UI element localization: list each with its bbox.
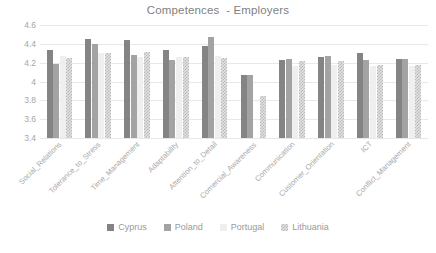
legend-label: Poland — [175, 222, 203, 232]
y-axis-tick-label: 4.4 — [24, 39, 36, 49]
y-axis-tick-label: 4.2 — [24, 58, 36, 68]
bar — [409, 66, 415, 138]
bar — [377, 65, 383, 138]
bar — [66, 58, 72, 138]
bar — [85, 39, 91, 138]
y-axis-tick-label: 4.6 — [24, 20, 36, 30]
bar — [325, 56, 331, 138]
bar — [318, 57, 324, 138]
bar-group — [273, 25, 312, 138]
bar — [221, 58, 227, 138]
gridline — [40, 138, 428, 139]
bar — [402, 59, 408, 138]
bar — [53, 64, 59, 138]
bar — [415, 65, 421, 138]
x-axis-category-labels: Social_RelationsTolerance_to_StressTime_… — [40, 140, 428, 210]
bar-group — [156, 25, 195, 138]
bar — [202, 46, 208, 138]
bar — [60, 56, 66, 138]
bar — [47, 50, 53, 138]
bar — [176, 57, 182, 138]
y-axis-tick-label: 3.8 — [24, 95, 36, 105]
bar — [92, 44, 98, 138]
bar — [163, 50, 169, 138]
bar — [241, 75, 247, 138]
x-axis-tick-label: Adaptability — [146, 140, 180, 174]
bar-group — [79, 25, 118, 138]
bar — [279, 60, 285, 138]
bar-group — [234, 25, 273, 138]
bar — [144, 52, 150, 138]
bar-chart: Competences - Employers 4.64.44.243.83.6… — [0, 0, 436, 253]
bar — [338, 61, 344, 138]
bar — [299, 61, 305, 138]
bar — [370, 66, 376, 138]
y-axis-tick-label: 3.6 — [24, 114, 36, 124]
bar — [396, 59, 402, 138]
legend-swatch-icon — [107, 224, 114, 231]
legend-swatch-icon — [281, 224, 288, 231]
y-axis-tick-label: 4 — [31, 77, 36, 87]
bar — [260, 96, 266, 138]
bar — [247, 75, 253, 138]
bar-group — [118, 25, 157, 138]
bar — [98, 53, 104, 138]
bar — [357, 53, 363, 138]
bar — [105, 53, 111, 138]
bar — [208, 37, 214, 138]
legend-swatch-icon — [164, 224, 171, 231]
y-axis-tick-label: 3.4 — [24, 133, 36, 143]
legend-item[interactable]: Poland — [164, 222, 203, 232]
bar — [363, 60, 369, 138]
bar — [137, 57, 143, 138]
plot-area — [40, 25, 428, 138]
bar-group — [350, 25, 389, 138]
legend-label: Portugal — [231, 222, 265, 232]
legend-item[interactable]: Portugal — [220, 222, 265, 232]
bar-group — [195, 25, 234, 138]
legend-item[interactable]: Cyprus — [107, 222, 147, 232]
bar — [286, 59, 292, 138]
bar-group — [40, 25, 79, 138]
chart-legend: CyprusPolandPortugalLithuania — [0, 222, 436, 232]
bar — [215, 56, 221, 138]
bar — [131, 55, 137, 138]
bar — [124, 40, 130, 138]
bar-group — [389, 25, 428, 138]
x-axis-tick-label: ICT — [359, 140, 374, 155]
bar — [292, 66, 298, 139]
bar — [169, 60, 175, 138]
legend-label: Lithuania — [292, 222, 329, 232]
y-axis: 4.64.44.243.83.63.4 — [0, 25, 36, 138]
legend-label: Cyprus — [118, 222, 147, 232]
legend-item[interactable]: Lithuania — [281, 222, 329, 232]
legend-swatch-icon — [220, 224, 227, 231]
bar-group — [312, 25, 351, 138]
bar — [183, 57, 189, 138]
chart-title: Competences - Employers — [0, 4, 436, 16]
bar — [331, 65, 337, 138]
